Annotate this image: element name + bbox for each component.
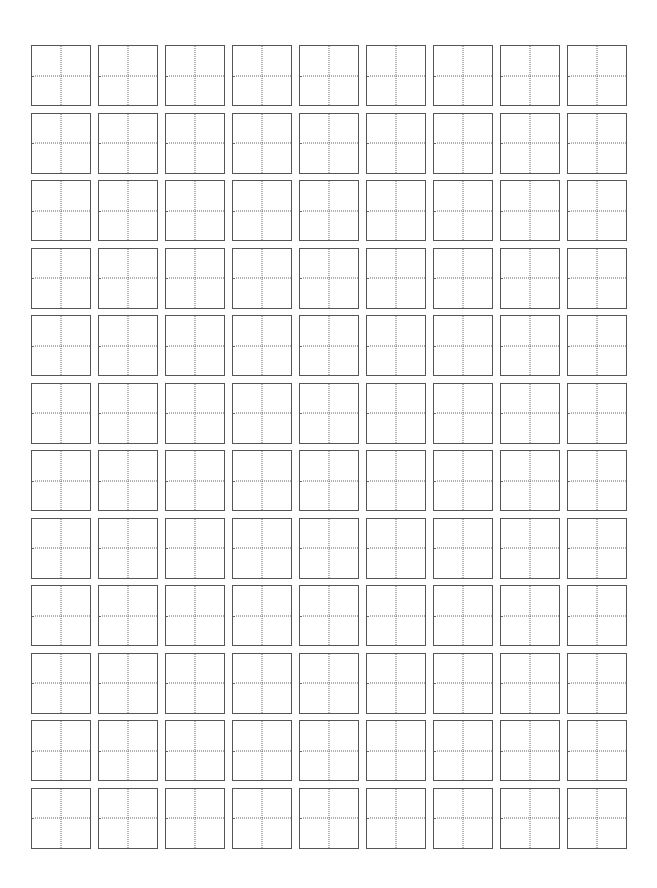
grid-cell [299,180,359,241]
grid-cell [299,248,359,309]
grid-cell [366,653,426,714]
horizontal-guide-line [434,683,492,684]
grid-cell [31,45,91,106]
horizontal-guide-line [99,210,157,211]
horizontal-guide-line [99,278,157,279]
horizontal-guide-line [99,683,157,684]
grid-cell [98,518,158,579]
horizontal-guide-line [300,750,358,751]
grid-cell [299,450,359,511]
horizontal-guide-line [568,278,626,279]
horizontal-guide-line [568,210,626,211]
horizontal-guide-line [99,818,157,819]
grid-cell [366,180,426,241]
horizontal-guide-line [367,413,425,414]
horizontal-guide-line [32,413,90,414]
grid-cell [567,315,627,376]
grid-cell [299,113,359,174]
grid-cell [31,450,91,511]
grid-cell [232,180,292,241]
grid-cell [165,45,225,106]
grid-cell [433,788,493,849]
grid-cell [232,248,292,309]
grid-cell [366,315,426,376]
horizontal-guide-line [32,278,90,279]
horizontal-guide-line [367,278,425,279]
grid-cell [165,248,225,309]
horizontal-guide-line [367,750,425,751]
horizontal-guide-line [166,278,224,279]
horizontal-guide-line [32,210,90,211]
grid-cell [165,585,225,646]
grid-cell [31,585,91,646]
horizontal-guide-line [233,480,291,481]
grid-cell [567,180,627,241]
horizontal-guide-line [166,75,224,76]
grid-cell [31,315,91,376]
grid-cell [98,45,158,106]
grid-cell [31,720,91,781]
horizontal-guide-line [300,143,358,144]
horizontal-guide-line [32,683,90,684]
horizontal-guide-line [568,143,626,144]
grid-cell [98,113,158,174]
grid-cell [500,383,560,444]
grid-cell [31,383,91,444]
grid-cell [299,45,359,106]
horizontal-guide-line [166,615,224,616]
horizontal-guide-line [434,750,492,751]
grid-cell [165,450,225,511]
grid-cell [433,653,493,714]
horizontal-guide-line [501,480,559,481]
horizontal-guide-line [166,548,224,549]
horizontal-guide-line [300,278,358,279]
horizontal-guide-line [367,480,425,481]
horizontal-guide-line [501,345,559,346]
horizontal-guide-line [367,818,425,819]
horizontal-guide-line [300,413,358,414]
grid-cell [98,315,158,376]
grid-cell [232,315,292,376]
horizontal-guide-line [32,750,90,751]
grid-cell [165,180,225,241]
horizontal-guide-line [99,548,157,549]
horizontal-guide-line [99,750,157,751]
grid-cell [232,720,292,781]
grid-cell [98,788,158,849]
grid-cell [165,518,225,579]
grid-cell [299,585,359,646]
grid-cell [98,180,158,241]
grid-cell [500,518,560,579]
grid-cell [366,585,426,646]
horizontal-guide-line [233,210,291,211]
horizontal-guide-line [99,615,157,616]
grid-cell [500,315,560,376]
grid-cell [366,720,426,781]
grid-cell [31,788,91,849]
horizontal-guide-line [99,480,157,481]
grid-cell [366,788,426,849]
horizontal-guide-line [233,413,291,414]
horizontal-guide-line [434,210,492,211]
horizontal-guide-line [300,615,358,616]
horizontal-guide-line [99,345,157,346]
grid-cell [299,383,359,444]
horizontal-guide-line [166,345,224,346]
grid-cell [98,720,158,781]
horizontal-guide-line [233,548,291,549]
horizontal-guide-line [434,818,492,819]
horizontal-guide-line [434,480,492,481]
horizontal-guide-line [367,548,425,549]
horizontal-guide-line [32,818,90,819]
horizontal-guide-line [233,143,291,144]
grid-cell [165,653,225,714]
grid-cell [165,788,225,849]
horizontal-guide-line [166,683,224,684]
grid-cell [165,315,225,376]
grid-cell [433,450,493,511]
horizontal-guide-line [367,345,425,346]
horizontal-guide-line [434,278,492,279]
horizontal-guide-line [501,683,559,684]
horizontal-guide-line [434,143,492,144]
horizontal-guide-line [233,683,291,684]
